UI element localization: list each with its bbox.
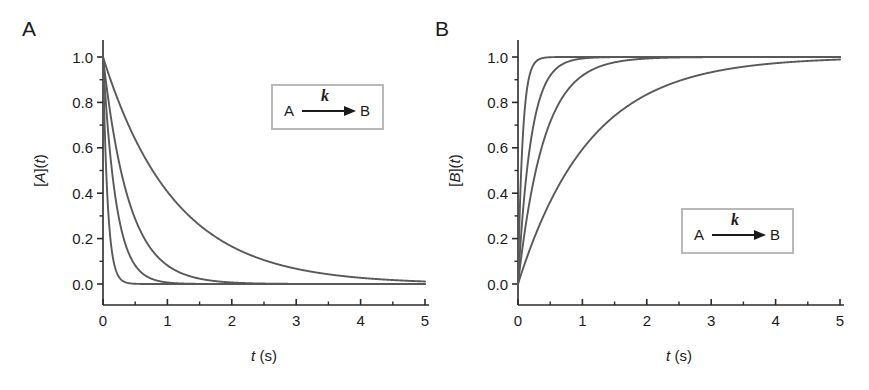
species-product-label: B xyxy=(770,226,780,243)
rate-constant-label: k xyxy=(321,87,329,104)
x-tick-label: 4 xyxy=(771,312,779,329)
species-reactant-label: A xyxy=(284,102,294,119)
reaction-scheme-inset-a: A k B xyxy=(271,84,384,130)
arrow-head xyxy=(344,106,356,116)
x-tick-label: 3 xyxy=(292,312,300,329)
x-tick-label: 1 xyxy=(578,312,586,329)
x-tick-label: 1 xyxy=(163,312,171,329)
y-tick-label: 1.0 xyxy=(72,49,93,66)
species-product-label: B xyxy=(360,102,370,119)
x-tick-label: 2 xyxy=(228,312,236,329)
y-tick-label: 1.0 xyxy=(487,49,508,66)
plot-area-a: 0.00.20.40.60.81.0012345t (s)[A](t) xyxy=(0,0,434,390)
y-tick-label: 0.0 xyxy=(72,276,93,293)
x-tick-label: 5 xyxy=(836,312,844,329)
panel-b: B 0.00.20.40.60.81.0012345t (s)[B](t) A … xyxy=(435,0,869,390)
x-tick-label: 5 xyxy=(421,312,429,329)
x-axis-title: t (s) xyxy=(251,347,277,364)
x-tick-label: 0 xyxy=(514,312,522,329)
y-axis-title: [B](t) xyxy=(446,154,463,187)
y-tick-label: 0.2 xyxy=(72,230,93,247)
reaction-arrow-diagram: A k B xyxy=(278,87,378,127)
y-tick-label: 0.6 xyxy=(72,139,93,156)
y-tick-label: 0.8 xyxy=(72,94,93,111)
x-axis-title: t (s) xyxy=(666,347,692,364)
reaction-scheme-inset-b: A k B xyxy=(681,208,794,254)
y-tick-label: 0.4 xyxy=(72,185,93,202)
y-tick-label: 0.8 xyxy=(487,94,508,111)
y-tick-label: 0.4 xyxy=(487,185,508,202)
y-tick-label: 0.6 xyxy=(487,139,508,156)
species-reactant-label: A xyxy=(694,226,704,243)
y-tick-label: 0.0 xyxy=(487,276,508,293)
y-tick-label: 0.2 xyxy=(487,230,508,247)
arrow-head xyxy=(754,230,766,240)
x-tick-label: 3 xyxy=(707,312,715,329)
panel-a: A 0.00.20.40.60.81.0012345t (s)[A](t) A … xyxy=(0,0,434,390)
plot-area-b: 0.00.20.40.60.81.0012345t (s)[B](t) xyxy=(435,0,869,390)
reaction-arrow-diagram: A k B xyxy=(688,211,788,251)
x-tick-label: 0 xyxy=(99,312,107,329)
x-tick-label: 4 xyxy=(356,312,364,329)
y-axis-title: [A](t) xyxy=(31,154,48,187)
rate-constant-label: k xyxy=(731,211,739,228)
x-tick-label: 2 xyxy=(643,312,651,329)
